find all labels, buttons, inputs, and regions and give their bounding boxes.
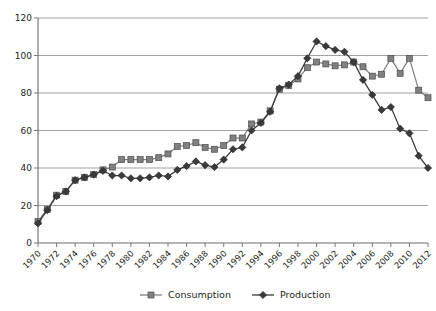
x-tick-label-1986: 1986 <box>169 248 191 270</box>
x-tick-label-1994: 1994 <box>243 248 265 270</box>
data-point-consumption-2000 <box>314 59 320 65</box>
legend-marker-production <box>259 291 266 298</box>
data-point-production-2002 <box>332 46 339 53</box>
x-tick-label-1972: 1972 <box>39 248 61 270</box>
data-point-production-2000 <box>313 38 320 45</box>
data-point-consumption-2007 <box>379 71 385 77</box>
series-production <box>34 38 431 227</box>
data-point-production-2009 <box>397 125 404 132</box>
data-point-consumption-2009 <box>397 70 403 76</box>
y-tick-label-20: 20 <box>21 201 33 211</box>
data-point-consumption-1993 <box>249 121 255 127</box>
data-point-consumption-1990 <box>221 143 227 149</box>
x-tick-label-1990: 1990 <box>206 248 228 270</box>
axes <box>34 18 428 247</box>
data-point-production-1982 <box>146 174 153 181</box>
legend-marker-consumption <box>148 292 154 298</box>
data-point-consumption-1991 <box>230 135 236 141</box>
data-point-production-2008 <box>387 103 394 110</box>
x-tick-label-1970: 1970 <box>21 248 43 270</box>
data-point-production-1980 <box>127 175 134 182</box>
data-point-production-1987 <box>192 158 199 165</box>
data-point-consumption-1983 <box>156 155 162 161</box>
data-point-consumption-1988 <box>202 144 208 150</box>
data-point-consumption-2005 <box>360 64 366 70</box>
data-point-consumption-2006 <box>369 73 375 79</box>
data-point-consumption-1978 <box>109 164 115 170</box>
y-tick-label-0: 0 <box>26 238 32 248</box>
data-point-consumption-2001 <box>323 61 329 67</box>
y-tick-label-80: 80 <box>21 88 33 98</box>
data-point-production-1983 <box>155 172 162 179</box>
data-point-production-1992 <box>239 144 246 151</box>
data-point-consumption-1999 <box>304 65 310 71</box>
x-tick-label-2004: 2004 <box>336 248 358 270</box>
data-point-production-1979 <box>118 172 125 179</box>
data-point-production-2001 <box>322 43 329 50</box>
x-tick-label-2002: 2002 <box>318 248 340 270</box>
x-tick-label-1978: 1978 <box>95 248 117 270</box>
data-point-consumption-1986 <box>184 143 190 149</box>
legend-item-production[interactable]: Production <box>252 289 331 300</box>
data-point-consumption-1987 <box>193 140 199 146</box>
x-tick-label-2010: 2010 <box>392 248 414 270</box>
x-tick-label-2000: 2000 <box>299 248 321 270</box>
series-line-production <box>38 41 428 223</box>
x-tick-label-2012: 2012 <box>411 248 433 270</box>
chart-legend: ConsumptionProduction <box>140 289 331 300</box>
x-tick-label-1988: 1988 <box>188 248 210 270</box>
y-tick-label-120: 120 <box>15 13 32 23</box>
data-point-consumption-2008 <box>388 55 394 61</box>
y-axis-tick-labels: 020406080100120 <box>15 13 32 248</box>
y-tick-label-40: 40 <box>21 163 33 173</box>
data-point-consumption-1985 <box>174 143 180 149</box>
data-series <box>34 38 431 227</box>
data-point-consumption-1982 <box>146 157 152 163</box>
data-point-consumption-1992 <box>239 135 245 141</box>
x-tick-label-2006: 2006 <box>355 248 377 270</box>
data-point-consumption-1981 <box>137 157 143 163</box>
data-point-production-2005 <box>359 76 366 83</box>
legend-label-production: Production <box>280 289 331 300</box>
data-point-consumption-1979 <box>119 157 125 163</box>
data-point-production-1981 <box>137 175 144 182</box>
data-point-consumption-1984 <box>165 151 171 157</box>
x-tick-label-1998: 1998 <box>281 248 303 270</box>
data-point-production-2007 <box>378 106 385 113</box>
x-tick-label-1980: 1980 <box>113 248 135 270</box>
x-tick-label-1992: 1992 <box>225 248 247 270</box>
data-point-consumption-2002 <box>332 63 338 69</box>
x-axis-tick-labels: 1970197219741976197819801982198419861988… <box>21 248 433 270</box>
x-tick-label-1974: 1974 <box>58 248 80 270</box>
y-tick-label-60: 60 <box>21 126 33 136</box>
legend-label-consumption: Consumption <box>168 289 231 300</box>
chart-canvas: 020406080100120 197019721974197619781980… <box>0 0 436 311</box>
data-point-consumption-2011 <box>416 87 422 93</box>
x-tick-label-1982: 1982 <box>132 248 154 270</box>
data-point-production-1978 <box>109 172 116 179</box>
x-tick-label-1996: 1996 <box>262 248 284 270</box>
data-point-production-2006 <box>369 91 376 98</box>
legend-item-consumption[interactable]: Consumption <box>140 289 231 300</box>
data-point-consumption-2012 <box>425 95 431 101</box>
data-point-consumption-1980 <box>128 157 134 163</box>
y-tick-label-100: 100 <box>15 51 32 61</box>
data-point-production-1986 <box>183 163 190 170</box>
data-point-consumption-1989 <box>211 146 217 152</box>
x-tick-label-1984: 1984 <box>151 248 173 270</box>
x-tick-label-2008: 2008 <box>373 248 395 270</box>
data-point-consumption-2010 <box>406 55 412 61</box>
line-chart: 020406080100120 197019721974197619781980… <box>0 0 436 311</box>
series-consumption <box>35 55 431 224</box>
data-point-consumption-2003 <box>341 62 347 68</box>
x-tick-label-1976: 1976 <box>76 248 98 270</box>
